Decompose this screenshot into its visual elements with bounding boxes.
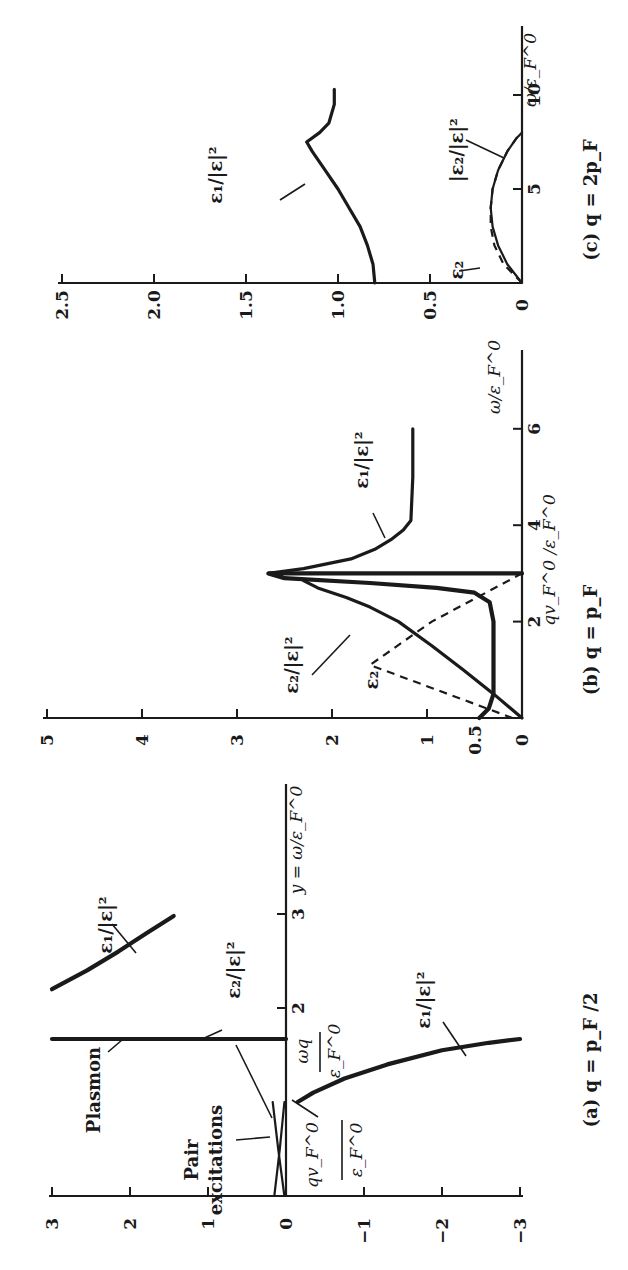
leader-qv [292, 1100, 318, 1117]
value-tick-label: 0 [512, 299, 532, 311]
leader-eps1 [373, 513, 385, 538]
value-tick-label: 3 [42, 1218, 62, 1230]
value-tick-label: 2.5 [52, 290, 72, 320]
value-tick-label: 5 [37, 734, 57, 746]
label-eps2-ratio: ε₂/|ε|² [223, 941, 245, 998]
panel-caption: (b) q = p_F [580, 585, 601, 696]
label-eps2-ratio: |ε₂/|ε|² [446, 118, 468, 182]
qv-marker-label: qv_F^0 /ε_F^0 [539, 494, 559, 626]
value-tick-label: 1 [198, 1218, 218, 1230]
value-tick-label: 3 [227, 734, 247, 746]
label-eps1-ratio: ε₁/|ε|² [205, 146, 227, 203]
value-tick-label: 1 [417, 734, 437, 746]
leader-eps1 [280, 184, 305, 200]
value-tick-label: 2 [322, 734, 342, 746]
leader-eps2-pair [236, 1045, 272, 1118]
frequency-tick-label: 3 [288, 908, 308, 920]
panel-a: 3210−1−2−323y = ω/ε_F^0PlasmonPairexcita… [42, 784, 601, 1244]
frequency-axis-label: y = ω/ε_F^0 [286, 785, 306, 895]
leader-pair [236, 1137, 270, 1140]
frequency-axis-label: ω/ε_F^0 [520, 33, 540, 107]
panel-b: 00.512345246ω/ε_F^0qv_F^0 /ε_F^0ε₁/|ε|²ε… [37, 340, 601, 755]
label-pair: Pair [181, 1139, 202, 1181]
label-qv-num: qv_F^0 [302, 1122, 322, 1188]
label-eps1-ratio: ε₁/|ε|² [351, 431, 373, 488]
label-qv-den: ε_F^0 [346, 1123, 366, 1178]
frequency-tick-label: 5 [524, 183, 544, 195]
figure: 00.51.01.52.02.5510ω/ε_F^0ε₁/|ε|²|ε₂/|ε|… [0, 0, 628, 1270]
curve-eps2 [370, 573, 522, 718]
frequency-tick-label: 2 [288, 1002, 308, 1014]
value-tick-label: −3 [510, 1218, 530, 1244]
value-tick-label: 0 [276, 1218, 296, 1230]
label-eps2-ratio: ε₂/|ε|² [281, 636, 303, 693]
curve-eps1-ratio-low [268, 573, 522, 718]
curve-eps1-ratio-high [268, 429, 412, 574]
panel-caption: (c) q = 2p_F [580, 139, 601, 261]
value-tick-label: 0.5 [465, 725, 485, 755]
panel-c: 00.51.01.52.02.5510ω/ε_F^0ε₁/|ε|²|ε₂/|ε|… [52, 26, 601, 320]
curve-eps1-ratio [307, 89, 375, 283]
value-tick-label: 0.5 [420, 290, 440, 320]
value-tick-label: 2.0 [144, 290, 164, 320]
label-eps1-lower: ε₁/|ε|² [413, 971, 435, 1028]
value-tick-label: −2 [432, 1218, 452, 1244]
leader-eps2-ratio [466, 140, 504, 158]
label-eps2: ε₂ [361, 671, 382, 690]
value-tick-label: 0 [512, 734, 532, 746]
leader-plasmon [108, 1040, 122, 1052]
leader-eps2-ratio [312, 635, 350, 675]
value-tick-label: 2 [120, 1218, 140, 1230]
value-tick-label: 4 [132, 734, 152, 746]
frequency-tick-label: 6 [524, 423, 544, 435]
value-tick-label: −1 [354, 1218, 374, 1244]
panel-caption: (a) q = p_F /2 [580, 993, 601, 1128]
frequency-axis-label: ω/ε_F^0 [484, 340, 504, 414]
label-excitations: excitations [205, 1105, 226, 1215]
value-tick-label: 1.0 [328, 290, 348, 320]
label-omega-q-num: ωq [292, 1039, 312, 1064]
value-tick-label: 1.5 [236, 290, 256, 320]
label-omega-q-den: ε_F^0 [324, 1024, 344, 1079]
label-plasmon: Plasmon [83, 1047, 104, 1133]
